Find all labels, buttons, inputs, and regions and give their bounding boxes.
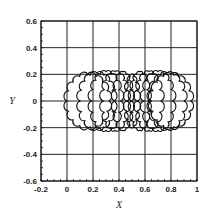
x-tick-label: 0.2 bbox=[87, 185, 99, 194]
y-tick-label: -0.4 bbox=[23, 150, 37, 159]
y-tick-label: -0.6 bbox=[23, 177, 37, 186]
x-tick-label: 1 bbox=[195, 185, 200, 194]
chart: -0.200.20.40.60.81 0.60.40.20-0.2-0.4-0.… bbox=[0, 0, 208, 217]
y-tick-label: 0.4 bbox=[26, 44, 38, 53]
x-tick-label: 0.6 bbox=[139, 185, 151, 194]
x-tick-label: 0.4 bbox=[113, 185, 125, 194]
x-tick-label: -0.2 bbox=[34, 185, 48, 194]
grid-lines bbox=[41, 21, 197, 181]
x-tick-label: 0 bbox=[65, 185, 70, 194]
y-tick-labels: 0.60.40.20-0.2-0.4-0.6 bbox=[23, 17, 37, 186]
y-tick-label: 0.6 bbox=[26, 17, 38, 26]
y-tick-label: 0 bbox=[33, 97, 38, 106]
x-tick-labels: -0.200.20.40.60.81 bbox=[34, 185, 200, 194]
y-axis-label: Y bbox=[9, 95, 16, 106]
y-tick-label: 0.2 bbox=[26, 70, 38, 79]
x-tick-label: 0.8 bbox=[165, 185, 177, 194]
y-tick-label: -0.2 bbox=[23, 124, 37, 133]
x-axis-label: X bbox=[115, 199, 123, 210]
